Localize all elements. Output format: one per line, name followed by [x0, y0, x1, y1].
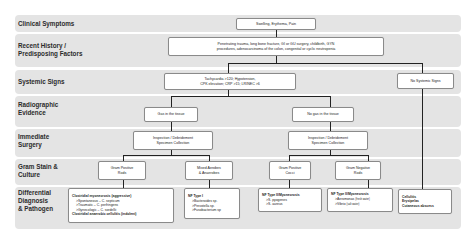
dx-nf-type-2-gnr: NF Type II/Myonecrosis >Aeromonas (fresh…: [327, 188, 393, 212]
node-no-gas-in-tissue: No gas in the tissue: [292, 107, 354, 122]
node-text: Cocci: [286, 171, 295, 176]
row-label-radiographic: Radiographic Evidence: [18, 101, 58, 117]
dx-clostridial: Clostridial myonecrosis (aggressive) >Sp…: [68, 188, 174, 223]
node-text: Rods: [354, 171, 362, 176]
connector: [228, 63, 229, 73]
node-clinical-symptoms: Swelling, Erythema, Pain: [236, 18, 316, 30]
node-gram-positive-rods: Gram Positive Rods: [98, 161, 146, 180]
connector: [289, 155, 369, 156]
node-no-systemic-signs: No Systemic Signs: [397, 73, 454, 89]
row-label-recent-history: Recent History / Predisposing Factors: [18, 42, 82, 58]
connector: [228, 63, 423, 64]
node-predisposing-factors: Penetrating trauma, long bone fracture, …: [168, 37, 384, 56]
dx-note: (salt water): [347, 203, 360, 206]
node-text: Rods: [118, 171, 126, 176]
dx-nf-type-2-gpc: NF Type II/Myonecrosis >S. pyogenes >S. …: [258, 188, 322, 212]
connector: [228, 89, 229, 96]
row-label-immediate-surgery: Immediate Surgery: [18, 133, 49, 149]
node-text: & Anaerobes: [199, 171, 220, 176]
row-label-clinical-symptoms: Clinical Symptoms: [18, 20, 74, 28]
connector: [276, 29, 277, 37]
node-text: Specimen Collection: [157, 141, 190, 146]
node-text: Gas in the tissue: [158, 112, 185, 117]
dx-item: >Vibrio (salt water): [331, 202, 359, 208]
node-text: Swelling, Erythema, Pain: [256, 22, 296, 27]
node-text: No Systemic Signs: [410, 79, 440, 84]
node-systemic-signs: Tachycardia >120; Hypotension, CPK eleva…: [164, 73, 296, 90]
row-label-differential: Differential Diagnosis & Pathogen: [18, 189, 53, 214]
node-text: Specimen Collection: [312, 141, 345, 146]
connector: [171, 96, 331, 97]
dx-item: >S. aureus: [262, 202, 283, 207]
node-gas-in-tissue: Gas in the tissue: [144, 107, 198, 122]
dx-note: (fresh water): [355, 198, 370, 201]
connector: [422, 63, 423, 73]
node-text: CPK elevation; CRP >15; LRINEC >6: [200, 82, 260, 87]
connector: [422, 89, 423, 189]
band-gram-stain: [15, 159, 461, 185]
band-immediate-surgery: [15, 129, 461, 157]
node-surgery-left: Inspection / Debridement Specimen Collec…: [133, 131, 213, 150]
node-mixed-aerobes-anaerobes: Mixed Aerobes & Anaerobes: [185, 161, 233, 180]
dx-item-text: >Aeromonas: [335, 197, 354, 201]
node-surgery-right: Inspection / Debridement Specimen Collec…: [288, 131, 368, 150]
node-gram-positive-cocci: Gram Positive Cocci: [269, 161, 311, 180]
row-label-gram-stain: Gram Stain & Culture: [18, 163, 58, 179]
node-gram-negative-rods: Gram Negative Rods: [335, 161, 381, 180]
dx-item: Cutaneous abscess: [402, 204, 434, 209]
band-radiographic: [15, 96, 461, 127]
dx-nf-type-1: NF Type I >Bacteroides sp. >Prevotella s…: [184, 188, 240, 219]
connector: [123, 155, 210, 156]
node-text: No gas in the tissue: [307, 112, 339, 117]
node-text: procedures, adenocarcinoma of the colon,…: [217, 47, 335, 52]
row-label-systemic-signs: Systemic Signs: [18, 78, 65, 86]
dx-item: >Fusobacterium sp: [188, 208, 221, 213]
dx-superficial: Cellulitis Erysipelas Cutaneous abscess: [398, 189, 452, 214]
dx-item-text: >Vibrio: [335, 202, 346, 206]
dx-footer: Clostridial anaerobic cellulitis (indole…: [72, 212, 136, 217]
